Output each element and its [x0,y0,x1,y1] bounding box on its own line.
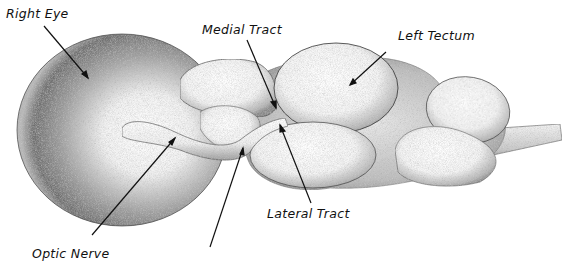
diagram-canvas [0,0,573,265]
label-left-tectum: Left Tectum [398,30,475,43]
label-optic-nerve: Optic Nerve [32,248,110,261]
label-lateral-tract: Lateral Tract [267,208,350,221]
label-medial-tract: Medial Tract [202,24,282,37]
label-right-eye: Right Eye [6,8,69,21]
left-tectum [274,43,398,133]
visual-system-diagram: Right Eye Medial Tract Left Tectum Later… [0,0,573,265]
